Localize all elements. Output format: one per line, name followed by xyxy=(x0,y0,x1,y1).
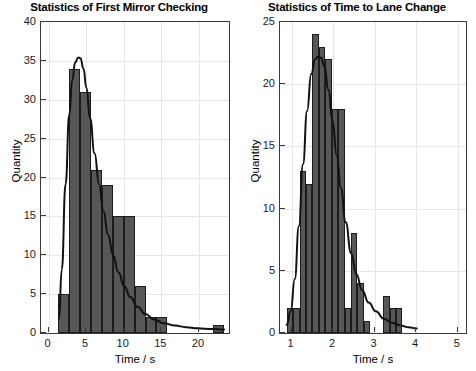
gridline-vertical xyxy=(292,22,293,333)
y-tick-mark xyxy=(41,177,46,178)
y-tick-mark xyxy=(41,332,46,333)
gridline-horizontal xyxy=(280,146,466,147)
y-tick-label: 25 xyxy=(8,132,36,144)
x-tick-label: 1 xyxy=(288,337,294,349)
y-tick-label: 10 xyxy=(247,202,275,214)
histogram-bar xyxy=(396,308,402,333)
x-tick-mark xyxy=(415,327,416,332)
y-tick-label: 5 xyxy=(247,264,275,276)
x-tick-label: 0 xyxy=(44,337,50,349)
histogram-bar xyxy=(156,317,167,333)
histogram-bar xyxy=(135,286,146,333)
y-tick-label: 35 xyxy=(8,54,36,66)
x-tick-mark xyxy=(332,327,333,332)
y-tick-label: 10 xyxy=(8,248,36,260)
plot-area-left xyxy=(40,21,230,334)
panel-time-to-lane-change: Statistics of Time to Lane Change Quanti… xyxy=(238,0,476,371)
y-tick-mark xyxy=(280,270,285,271)
y-tick-label: 15 xyxy=(247,139,275,151)
gridline-horizontal xyxy=(41,61,229,62)
y-tick-mark xyxy=(280,332,285,333)
gridline-horizontal xyxy=(280,84,466,85)
histogram-bar xyxy=(80,92,91,333)
y-tick-mark xyxy=(280,21,285,22)
histogram-bar xyxy=(113,216,124,333)
x-tick-label: 20 xyxy=(192,337,204,349)
y-tick-mark xyxy=(41,60,46,61)
histogram-bar xyxy=(364,321,370,333)
histogram-bar xyxy=(338,109,344,333)
y-tick-label: 20 xyxy=(247,77,275,89)
y-tick-label: 0 xyxy=(247,326,275,338)
x-tick-label: 4 xyxy=(412,337,418,349)
figure-two-histograms: Statistics of First Mirror Checking Quan… xyxy=(0,0,476,371)
y-axis-label-right: Quantity xyxy=(249,126,261,196)
y-tick-mark xyxy=(41,138,46,139)
chart-title-right: Statistics of Time to Lane Change xyxy=(238,1,476,13)
gridline-vertical xyxy=(416,22,417,333)
x-tick-label: 10 xyxy=(117,337,129,349)
plot-area-right xyxy=(279,21,467,334)
histogram-bar xyxy=(124,216,135,333)
x-tick-label: 5 xyxy=(454,337,460,349)
y-tick-label: 40 xyxy=(8,15,36,27)
histogram-bar xyxy=(91,170,102,333)
y-tick-mark xyxy=(41,215,46,216)
y-tick-mark xyxy=(280,208,285,209)
y-tick-label: 30 xyxy=(8,93,36,105)
histogram-bar xyxy=(69,69,80,333)
x-tick-label: 15 xyxy=(154,337,166,349)
y-tick-mark xyxy=(280,83,285,84)
x-tick-mark xyxy=(85,327,86,332)
x-tick-mark xyxy=(160,327,161,332)
histogram-bar xyxy=(102,185,113,333)
chart-title-left: Statistics of First Mirror Checking xyxy=(0,1,238,13)
x-tick-mark xyxy=(291,327,292,332)
y-tick-mark xyxy=(41,293,46,294)
gridline-vertical xyxy=(458,22,459,333)
x-tick-mark xyxy=(123,327,124,332)
x-tick-mark xyxy=(48,327,49,332)
panel-first-mirror-checking: Statistics of First Mirror Checking Quan… xyxy=(0,0,238,371)
y-tick-mark xyxy=(41,254,46,255)
x-tick-mark xyxy=(457,327,458,332)
y-tick-mark xyxy=(41,99,46,100)
y-tick-mark xyxy=(280,145,285,146)
y-tick-label: 15 xyxy=(8,209,36,221)
y-tick-label: 0 xyxy=(8,326,36,338)
x-axis-label-left: Time / s xyxy=(40,353,230,365)
y-tick-mark xyxy=(41,21,46,22)
y-tick-label: 25 xyxy=(247,15,275,27)
y-tick-label: 20 xyxy=(8,171,36,183)
x-tick-label: 5 xyxy=(82,337,88,349)
histogram-bar xyxy=(146,317,157,333)
histogram-bar xyxy=(213,325,224,333)
x-tick-mark xyxy=(374,327,375,332)
histogram-bar xyxy=(58,294,69,333)
x-tick-mark xyxy=(198,327,199,332)
gridline-vertical xyxy=(375,22,376,333)
x-axis-label-right: Time / s xyxy=(279,353,467,365)
y-tick-label: 5 xyxy=(8,287,36,299)
x-tick-label: 3 xyxy=(371,337,377,349)
x-tick-label: 2 xyxy=(329,337,335,349)
